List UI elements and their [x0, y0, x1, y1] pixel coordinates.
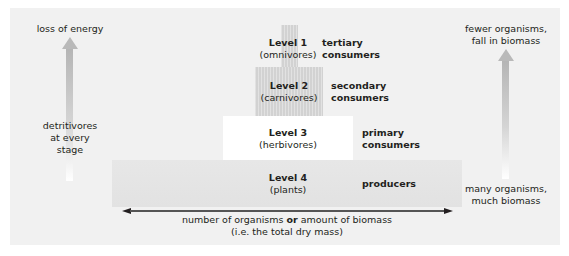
right-arrow-shaft — [502, 61, 509, 179]
detritivores-line3: stage — [20, 144, 120, 156]
axis-label-or: or — [286, 214, 297, 225]
axis-arrow-line — [130, 210, 446, 212]
many-organisms-label: many organisms, much biomass — [456, 183, 556, 207]
level-2-role: secondary consumers — [331, 80, 389, 104]
detritivores-line2: at every — [20, 132, 120, 144]
level-3-type: (herbivores) — [238, 139, 338, 151]
axis-label-part1: number of organisms — [182, 214, 287, 225]
level-4-role-line1: producers — [362, 178, 416, 190]
level-1-role-line1: tertiary — [322, 37, 380, 49]
level-3-title: Level 3 — [238, 127, 338, 139]
axis-label-line1: number of organisms or amount of biomass — [137, 214, 437, 226]
many-organisms-line2: much biomass — [456, 195, 556, 207]
right-arrow-head-icon — [498, 49, 514, 61]
level-4-title: Level 4 — [238, 172, 338, 184]
level-4-type: (plants) — [238, 184, 338, 196]
level-1-role: tertiary consumers — [322, 37, 380, 61]
level-2-label: Level 2 (carnivores) — [239, 80, 339, 104]
level-2-type: (carnivores) — [239, 92, 339, 104]
loss-of-energy-label: loss of energy — [20, 23, 120, 35]
detritivores-line1: detritivores — [20, 120, 120, 132]
left-arrow-shaft — [66, 49, 73, 181]
level-3-label: Level 3 (herbivores) — [238, 127, 338, 151]
level-2-title: Level 2 — [239, 80, 339, 92]
axis-label: number of organisms or amount of biomass… — [137, 214, 437, 238]
axis-arrow-right-icon — [444, 208, 453, 214]
level-4-label: Level 4 (plants) — [238, 172, 338, 196]
fewer-organisms-line2: fall in biomass — [456, 35, 556, 47]
level-2-role-line1: secondary — [331, 80, 389, 92]
fewer-organisms-line1: fewer organisms, — [456, 23, 556, 35]
fewer-organisms-label: fewer organisms, fall in biomass — [456, 23, 556, 47]
axis-label-part2: amount of biomass — [298, 214, 392, 225]
detritivores-label: detritivores at every stage — [20, 120, 120, 156]
axis-label-line2: (i.e. the total dry mass) — [137, 226, 437, 238]
level-3-role-line1: primary — [362, 127, 420, 139]
level-3-role-line2: consumers — [362, 139, 420, 151]
level-3-role: primary consumers — [362, 127, 420, 151]
many-organisms-line1: many organisms, — [456, 183, 556, 195]
left-arrow-head-icon — [62, 37, 78, 49]
level-1-role-line2: consumers — [322, 49, 380, 61]
level-4-role: producers — [362, 178, 416, 190]
level-2-role-line2: consumers — [331, 92, 389, 104]
